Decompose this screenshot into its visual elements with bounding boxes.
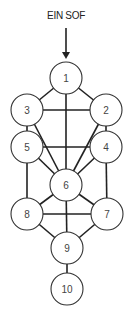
node-label: 3 (24, 105, 30, 116)
node-6: 6 (50, 169, 82, 201)
node-label: 6 (63, 180, 69, 191)
arrow-down-icon (62, 28, 70, 59)
sefirot-diagram: 12345678910 (0, 0, 132, 318)
node-2: 2 (90, 94, 122, 126)
node-8: 8 (11, 198, 43, 230)
node-10: 10 (51, 273, 83, 305)
node-1: 1 (50, 62, 82, 94)
node-4: 4 (90, 131, 122, 163)
node-label: 2 (103, 105, 109, 116)
node-label: 7 (104, 209, 110, 220)
node-label: 1 (63, 73, 69, 84)
node-label: 8 (24, 209, 30, 220)
node-label: 4 (103, 142, 109, 153)
node-label: 5 (24, 142, 30, 153)
node-9: 9 (51, 232, 83, 264)
node-3: 3 (11, 94, 43, 126)
node-label: 10 (61, 284, 73, 295)
node-7: 7 (91, 198, 123, 230)
node-5: 5 (11, 131, 43, 163)
node-label: 9 (64, 243, 70, 254)
